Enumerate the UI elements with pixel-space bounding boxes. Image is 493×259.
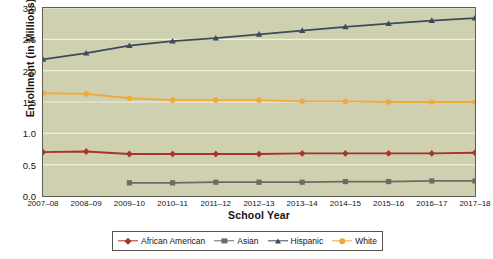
diamond-marker-icon	[118, 236, 138, 246]
data-point-marker	[343, 99, 349, 105]
y-tick-label: 3.0	[0, 3, 36, 14]
data-point-marker	[213, 180, 218, 185]
y-tick-label: 2.5	[0, 34, 36, 45]
data-point-marker	[343, 179, 348, 184]
data-point-marker	[43, 149, 46, 156]
series-white	[43, 90, 475, 104]
x-tick-label: 2016–17	[416, 199, 447, 208]
data-point-marker	[256, 97, 262, 103]
x-tick-label: 2008–09	[71, 199, 102, 208]
x-tick-label: 2013–14	[287, 199, 318, 208]
series-line	[43, 18, 475, 59]
data-point-marker	[472, 149, 475, 156]
legend-item-african-american[interactable]: African American	[118, 236, 205, 246]
y-tick-label: 1.0	[0, 128, 36, 139]
y-tick-label: 0.5	[0, 159, 36, 170]
series-asian	[127, 178, 475, 185]
square-marker-icon	[214, 236, 234, 246]
data-point-marker	[213, 97, 219, 103]
x-tick-label: 2012–13	[243, 199, 274, 208]
x-tick-label: 2011–12	[201, 199, 232, 208]
data-point-marker	[300, 180, 305, 185]
circle-marker-icon	[332, 236, 352, 246]
data-point-marker	[127, 95, 133, 101]
data-point-marker	[472, 178, 475, 183]
x-tick-label: 2007–08	[27, 199, 58, 208]
x-tick-label: 2010–11	[157, 199, 188, 208]
x-tick-label: 2014–15	[330, 199, 361, 208]
legend-label: Asian	[237, 236, 258, 246]
data-point-marker	[299, 99, 305, 105]
data-point-marker	[170, 97, 176, 103]
data-point-marker	[83, 91, 89, 97]
data-point-marker	[299, 150, 305, 157]
legend-label: White	[355, 236, 377, 246]
legend-label: Hispanic	[291, 236, 324, 246]
data-point-marker	[342, 150, 348, 157]
data-point-marker	[256, 180, 261, 185]
y-tick-label: 1.5	[0, 97, 36, 108]
data-point-marker	[43, 90, 46, 96]
data-point-marker	[386, 99, 392, 105]
series-hispanic	[43, 15, 475, 62]
plot-area	[42, 7, 476, 197]
data-point-marker	[169, 151, 175, 158]
series-african-american	[43, 148, 475, 157]
triangle-marker-icon	[268, 236, 288, 246]
enrollment-line-chart: Enrollment (in Millions) 0.00.51.01.52.0…	[0, 0, 493, 259]
data-point-marker	[170, 180, 175, 185]
plot-canvas	[43, 8, 475, 196]
data-point-marker	[213, 151, 219, 158]
legend-label: African American	[141, 236, 205, 246]
data-point-marker	[385, 150, 391, 157]
legend-item-hispanic[interactable]: Hispanic	[268, 236, 324, 246]
data-point-marker	[83, 148, 89, 155]
data-point-marker	[127, 180, 132, 185]
x-tick-label: 2017–18	[459, 199, 490, 208]
legend-item-white[interactable]: White	[332, 236, 377, 246]
x-tick-label: 2015–16	[373, 199, 404, 208]
x-axis-title: School Year	[42, 209, 476, 221]
data-point-marker	[126, 151, 132, 158]
data-point-marker	[256, 151, 262, 158]
chart-legend: African AmericanAsianHispanicWhite	[112, 231, 383, 251]
x-tick-label: 2009–10	[114, 199, 145, 208]
data-point-marker	[472, 99, 475, 105]
y-tick-label: 2.0	[0, 65, 36, 76]
legend-item-asian[interactable]: Asian	[214, 236, 258, 246]
data-point-marker	[429, 178, 434, 183]
data-point-marker	[429, 150, 435, 157]
data-point-marker	[386, 179, 391, 184]
data-point-marker	[429, 99, 435, 105]
